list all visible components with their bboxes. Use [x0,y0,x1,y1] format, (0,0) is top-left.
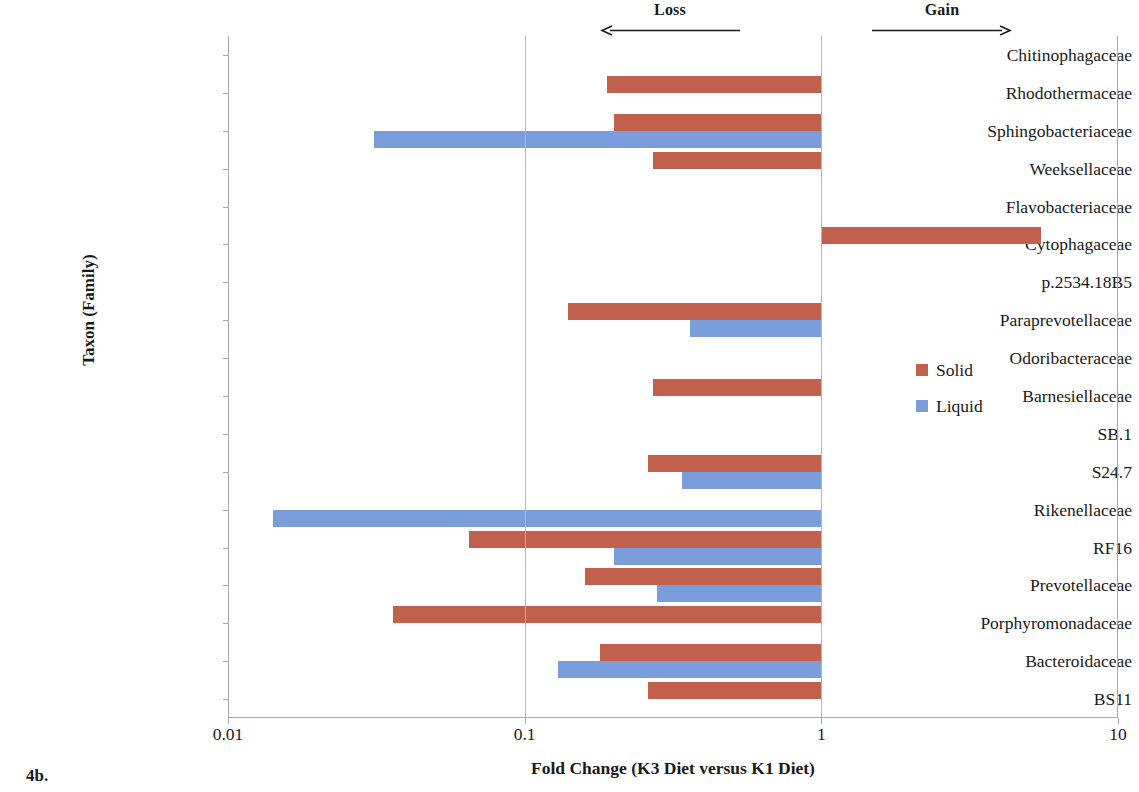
y-tick [223,55,228,56]
y-tick [223,320,228,321]
y-tick [223,131,228,132]
bar-solid-rhodothermaceae [607,76,821,93]
y-tick [223,510,228,511]
legend-swatch-icon [916,364,928,376]
x-axis-line [228,717,1118,718]
y-tick [223,207,228,208]
gain-label: Gain [872,2,1012,18]
y-tick [223,244,228,245]
gridline-0.1 [525,36,526,718]
y-tick [223,169,228,170]
y-tick [223,282,228,283]
figure-caption: 4b. [26,766,48,786]
bar-liquid-sphingobacteriaceae [374,131,822,148]
gridline-1 [821,36,822,718]
bar-solid-bs11 [648,682,822,699]
x-axis-title: Fold Change (K3 Diet versus K1 Diet) [228,758,1118,779]
bar-solid-sphingobacteriaceae [614,114,821,131]
x-tick-label-10: 10 [1058,724,1139,745]
legend-swatch-icon [916,400,928,412]
bar-liquid-s24-7 [682,472,821,489]
loss-arrow-icon [600,25,740,36]
y-tick [223,661,228,662]
bar-solid-cytophagaceae [821,227,1041,244]
y-tick [223,623,228,624]
legend-label: Solid [936,361,973,379]
bar-solid-barnesiellaceae [653,379,822,396]
bar-liquid-paraprevotellaceae [690,320,822,337]
bar-solid-rf16 [469,531,821,548]
y-tick [223,472,228,473]
x-tick-label-1: 1 [761,724,881,745]
legend-label: Liquid [936,397,983,415]
y-axis-title: Taxon (Family) [79,215,99,405]
bar-solid-s24-7 [648,455,822,472]
loss-label: Loss [600,2,740,18]
gain-annotation: Gain [872,2,1012,36]
loss-annotation: Loss [600,2,740,36]
x-tick-label-0.1: 0.1 [465,724,585,745]
gain-arrow-icon [872,25,1012,36]
bar-liquid-prevotellaceae [657,585,821,602]
y-tick [223,548,228,549]
figure-4b: Loss Gain Taxon (Family) Chitinophagacea… [0,0,1139,792]
y-axis-line [228,36,229,718]
y-tick [223,93,228,94]
bar-solid-bacteroidaceae [600,644,821,661]
bar-solid-paraprevotellaceae [568,303,821,320]
y-tick [223,585,228,586]
plot-right-border [1117,36,1118,718]
y-tick [223,434,228,435]
bar-solid-prevotellaceae [585,568,821,585]
x-tick-label-0.01: 0.01 [168,724,288,745]
bar-solid-weeksellaceae [653,152,822,169]
bar-liquid-bacteroidaceae [558,661,821,678]
legend-item-liquid[interactable]: Liquid [916,388,1056,424]
y-tick [223,699,228,700]
y-tick [223,358,228,359]
legend: SolidLiquid [916,352,1056,424]
legend-item-solid[interactable]: Solid [916,352,1056,388]
bar-liquid-rikenellaceae [273,510,821,527]
bar-solid-porphyromonadaceae [393,606,821,623]
bar-liquid-rf16 [614,548,821,565]
y-tick [223,396,228,397]
